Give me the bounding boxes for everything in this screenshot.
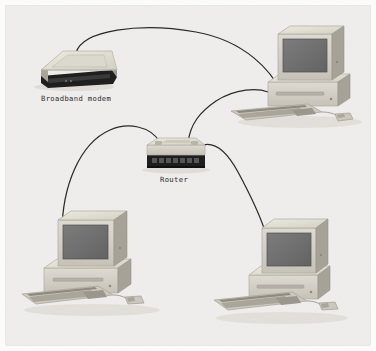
computer-shadow [216,312,348,324]
router-panel-shadow [147,166,205,168]
modem-led-icon [65,80,67,82]
label-broadband-modem: Broadband modem [41,94,111,103]
label-router: Router [160,175,188,184]
router-lan-port [191,141,198,145]
monitor-screen [283,39,327,72]
router-uplink-port [155,141,162,145]
power-button-icon [330,98,333,101]
power-button-icon [109,285,112,288]
device-router[interactable] [142,138,210,174]
monitor-side [316,219,328,273]
monitor-led-icon [320,254,322,256]
power-button-icon [310,291,313,294]
monitor-screen [63,225,108,259]
monitor-side [332,26,344,80]
monitor-led-icon [119,247,121,249]
network-diagram: Broadband modem Router [0,0,376,351]
diagram-canvas: Broadband modem Router [0,0,376,351]
router-ports [152,158,199,163]
monitor-screen [267,233,311,266]
computer-shadow [24,304,160,316]
router-body [147,145,205,155]
floppy-drive-slot [257,285,304,288]
floppy-drive-slot [276,92,324,95]
floppy-drive-slot [53,278,103,281]
monitor-led-icon [336,61,338,63]
modem-led-icon [70,80,72,82]
monitor-side [114,211,127,266]
